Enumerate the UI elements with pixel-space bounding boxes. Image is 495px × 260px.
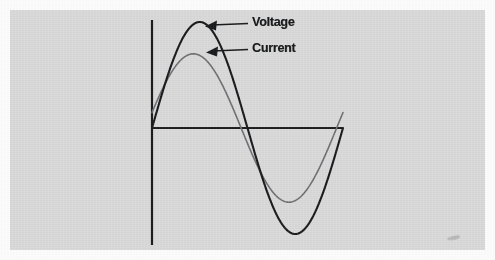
figure-screenshot: Voltage Current — [0, 0, 495, 260]
current-annotation-arrow — [206, 47, 248, 57]
voltage-label: Voltage — [252, 14, 294, 29]
current-label: Current — [252, 40, 295, 55]
waveform-plot — [0, 0, 495, 260]
